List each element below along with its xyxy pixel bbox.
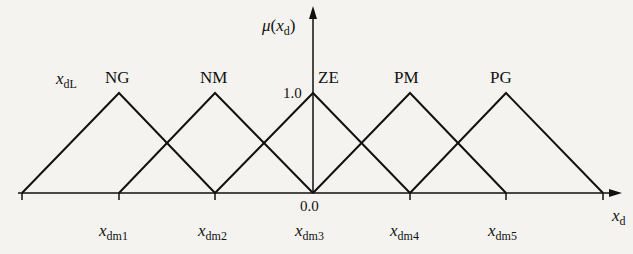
set-label-pm: PM (394, 69, 419, 86)
y-axis-arrow-icon (309, 6, 317, 19)
origin-value-label: 0.0 (300, 199, 319, 214)
triangle-pm (313, 93, 506, 193)
tick-label-xdm4: xdm4 (390, 222, 419, 242)
triangle-ng (22, 93, 215, 193)
set-label-pg: PG (490, 69, 512, 86)
set-label-ng: NG (105, 69, 130, 86)
triangle-pg (410, 93, 603, 193)
tick-label-xdm5: xdm5 (488, 222, 517, 242)
y-axis-label: μ(xd) (262, 17, 295, 37)
tick-label-xdm1: xdm1 (99, 222, 128, 242)
set-label-nm: NM (200, 69, 227, 86)
tick-label-xdm3: xdm3 (295, 222, 324, 242)
set-label-ze: ZE (318, 69, 339, 86)
triangle-nm (119, 93, 313, 193)
peak-value-label: 1.0 (283, 86, 302, 101)
membership-diagram (0, 0, 633, 254)
left-bound-label: xdL (56, 70, 77, 90)
x-axis-label: xd (612, 207, 626, 227)
tick-label-xdm2: xdm2 (198, 222, 227, 242)
x-axis-arrow-icon (609, 189, 622, 197)
